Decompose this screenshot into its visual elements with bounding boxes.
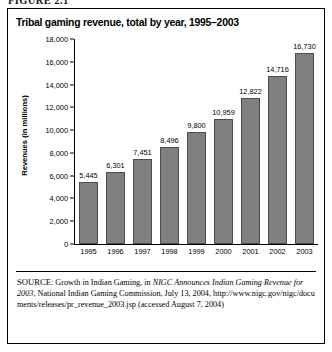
bar[interactable] [79, 182, 98, 244]
bar[interactable] [187, 132, 206, 244]
bar-value-label: 9,800 [187, 121, 206, 130]
bar-slot: 16,730 [295, 39, 314, 244]
x-tick-label: 2001 [237, 247, 264, 256]
bar-slot: 9,800 [187, 39, 206, 244]
x-tick-label: 2003 [291, 247, 318, 256]
bar-value-label: 10,959 [212, 108, 235, 117]
bar-slot: 8,496 [160, 39, 179, 244]
bar-value-label: 16,730 [293, 42, 316, 51]
x-tick-label: 2000 [210, 247, 237, 256]
bar-slot: 6,301 [106, 39, 125, 244]
bar-slot: 14,716 [268, 39, 287, 244]
y-tick-label: 2,000 [20, 217, 68, 226]
bar[interactable] [214, 119, 233, 244]
bar[interactable] [133, 159, 152, 244]
bar-value-label: 12,822 [239, 87, 262, 96]
y-tick-label: 0 [20, 240, 68, 249]
source-text-1: Growth in Indian Gaming, in [53, 278, 152, 287]
bar-slot: 7,451 [133, 39, 152, 244]
source-accessed: (accessed August 7, 2004) [136, 300, 224, 309]
bar-value-label: 5,445 [79, 171, 98, 180]
source-text-2: , National Indian Gaming Commission, Jul… [33, 289, 213, 298]
y-tick-label: 14,000 [20, 80, 68, 89]
y-tick-label: 4,000 [20, 194, 68, 203]
y-tick-label: 18,000 [20, 35, 68, 44]
bar-slot: 10,959 [214, 39, 233, 244]
x-tick-label: 1999 [183, 247, 210, 256]
bar-value-label: 8,496 [160, 136, 179, 145]
x-tick-label: 1998 [156, 247, 183, 256]
y-axis-tick-labels: 02,0004,0006,0008,00010,00012,00014,0001… [20, 39, 68, 244]
bar-value-label: 14,716 [266, 65, 289, 74]
bar[interactable] [295, 53, 314, 244]
source-divider [16, 271, 316, 272]
source-label: SOURCE: [17, 277, 53, 287]
x-tick-label: 1997 [129, 247, 156, 256]
y-tick-label: 6,000 [20, 171, 68, 180]
chart-title: Tribal gaming revenue, total by year, 19… [16, 17, 312, 28]
bar-slot: 5,445 [79, 39, 98, 244]
chart-panel: Tribal gaming revenue, total by year, 19… [7, 8, 325, 344]
x-tick-label: 1995 [75, 247, 102, 256]
bar[interactable] [241, 98, 260, 244]
figure-label: FIGURE 2.1 [8, 0, 69, 6]
y-tick-label: 10,000 [20, 126, 68, 135]
bar-series: 5,4456,3017,4518,4969,80010,95912,82214,… [75, 39, 318, 244]
y-tick-label: 16,000 [20, 57, 68, 66]
bar[interactable] [160, 147, 179, 244]
source-note: SOURCE: Growth in Indian Gaming, in NIGC… [17, 277, 317, 311]
bar-value-label: 6,301 [106, 161, 125, 170]
bar[interactable] [268, 76, 287, 244]
y-tick-label: 8,000 [20, 148, 68, 157]
bar-value-label: 7,451 [133, 148, 152, 157]
x-tick-label: 2002 [264, 247, 291, 256]
y-tick-label: 12,000 [20, 103, 68, 112]
x-axis-line [74, 244, 318, 245]
plot-area: Revenues (in millions) 02,0004,0006,0008… [8, 39, 326, 271]
figure-container: FIGURE 2.1 Tribal gaming revenue, total … [0, 0, 332, 352]
bar-slot: 12,822 [241, 39, 260, 244]
bar[interactable] [106, 172, 125, 244]
x-tick-label: 1996 [102, 247, 129, 256]
